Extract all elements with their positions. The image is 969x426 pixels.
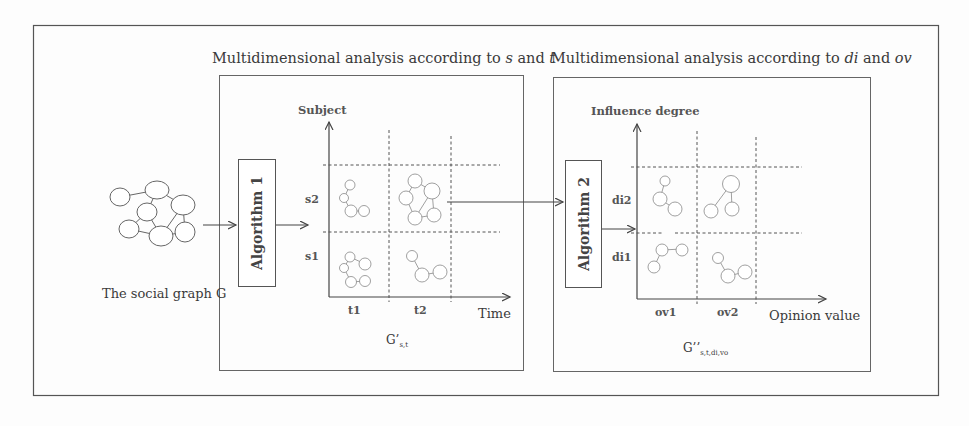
- panel-st-caption: G’s,t: [386, 333, 408, 349]
- tick-t2: t2: [414, 304, 427, 317]
- outer-frame: [34, 26, 939, 396]
- influence-degree-axis-label: Influence degree: [591, 104, 700, 118]
- algorithm-1-box: Algorithm 1: [238, 159, 276, 287]
- algorithm-2-box: Algorithm 2: [565, 160, 602, 288]
- tick-s1: s1: [305, 250, 319, 263]
- panel-diov-caption: G’’s,t,di,vo: [683, 341, 728, 357]
- panel-st-subgraphs: [340, 174, 448, 288]
- opinion-value-axis-label: Opinion value: [769, 308, 860, 323]
- social-graph: [110, 181, 195, 246]
- panel-diov-subgraphs: [648, 176, 752, 284]
- tick-di2: di2: [612, 194, 632, 207]
- time-axis-label: Time: [478, 306, 511, 321]
- social-graph-label: The social graph G: [102, 286, 226, 301]
- panel-st-title: Multidimensional analysis according to s…: [212, 50, 555, 66]
- tick-di1: di1: [612, 251, 632, 264]
- panel-diov-title: Multidimensional analysis according to d…: [551, 50, 912, 66]
- tick-s2: s2: [305, 193, 319, 206]
- tick-ov2: ov2: [717, 306, 738, 319]
- panel-diov-grid: [631, 131, 802, 304]
- algorithm-1-label: Algorithm 1: [249, 176, 265, 270]
- subject-axis-label: Subject: [298, 103, 347, 117]
- algorithm-2-label: Algorithm 2: [576, 177, 592, 271]
- tick-ov1: ov1: [655, 306, 676, 319]
- tick-t1: t1: [348, 304, 361, 317]
